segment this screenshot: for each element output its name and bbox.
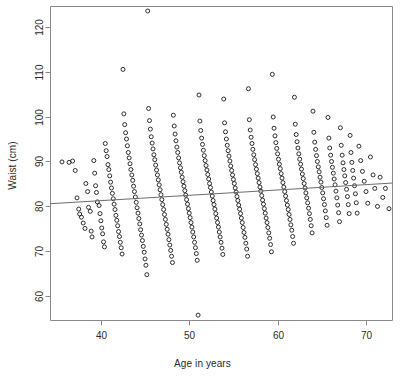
y-tick-label: 90 [34,156,45,168]
x-axis-title: Age in years [0,358,405,369]
y-tick-label: 120 [34,19,45,36]
scatter-plot-figure: 60708090100110120 40506070 Age in years … [0,0,405,379]
x-tick-label: 50 [184,330,196,341]
y-tick-label: 70 [34,246,45,258]
x-tick-label: 60 [273,330,285,341]
y-tick-label: 100 [34,109,45,126]
x-tick-label: 40 [96,330,108,341]
y-tick-label: 80 [34,201,45,213]
y-tick-label: 110 [34,64,45,80]
y-tick-label: 60 [34,291,45,303]
x-tick-label: 70 [361,330,373,341]
y-axis-title: Waist (cm) [7,121,18,211]
plot-canvas: 60708090100110120 40506070 [0,0,405,379]
